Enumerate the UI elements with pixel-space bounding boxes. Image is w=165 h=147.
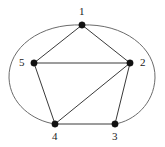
- vertex-label-4: 4: [52, 131, 58, 142]
- graph-edge-5-4: [34, 63, 55, 124]
- graph-vertex-1[interactable]: [79, 22, 85, 28]
- graph-edge-4-2: [55, 63, 130, 124]
- graph-canvas: [0, 0, 165, 147]
- vertex-label-1: 1: [79, 6, 85, 17]
- graph-edge-3-2: [115, 63, 130, 124]
- vertex-label-2: 2: [140, 57, 146, 68]
- graph-edge-1-4: [9, 25, 82, 124]
- graph-vertex-3[interactable]: [112, 121, 118, 127]
- graph-vertex-2[interactable]: [127, 60, 133, 66]
- graph-edge-1-2: [82, 25, 130, 63]
- vertex-label-3: 3: [112, 131, 118, 142]
- graph-vertex-5[interactable]: [31, 60, 37, 66]
- graph-edge-1-5: [34, 25, 82, 63]
- graph-vertex-4[interactable]: [52, 121, 58, 127]
- graph-figure: 12345: [0, 0, 165, 147]
- vertex-label-5: 5: [19, 57, 25, 68]
- edge-layer: [9, 25, 155, 124]
